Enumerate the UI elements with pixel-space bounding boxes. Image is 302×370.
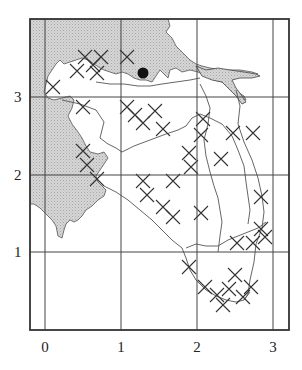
river-east: [236, 90, 264, 300]
x-tick-3: 3: [269, 340, 277, 355]
river-central: [200, 84, 222, 252]
x-tick-2: 2: [193, 340, 201, 355]
y-tick-3: 3: [14, 90, 22, 105]
y-tick-1: 1: [14, 245, 22, 260]
coast-south: [104, 186, 250, 302]
y-tick-2: 2: [14, 168, 22, 183]
x-tick-1: 1: [117, 340, 125, 355]
map-canvas: [0, 0, 302, 370]
map-figure: 0 1 2 3 1 2 3: [0, 0, 302, 370]
sea-region: [30, 19, 258, 238]
site-marker: [138, 68, 149, 79]
x-tick-0: 0: [41, 340, 49, 355]
